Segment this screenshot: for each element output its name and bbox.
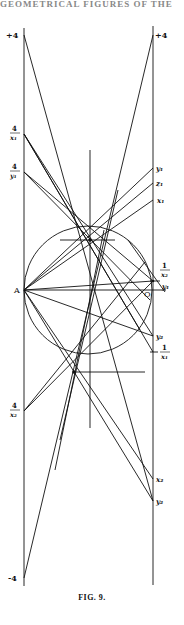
steep-line-1 [55, 230, 104, 470]
label-1x2-den: x₂ [160, 271, 168, 279]
line-4y1-inner [24, 172, 150, 300]
line-4y1-to-1x2 [24, 172, 153, 281]
construction-lines [24, 26, 166, 586]
label-left-top: +4 [6, 30, 19, 40]
lower-intersection-point [72, 370, 76, 374]
label-right-top: +4 [155, 30, 168, 40]
point-1x2 [152, 280, 155, 283]
label-4y1-num: 4 [12, 162, 17, 171]
geometric-construction-figure: +4 +4 -4 4 x₁ 4 y₁ A 4 x₂ y₁ z₁ x₁ 1 x₂ … [0, 0, 184, 625]
line-plus4-to-y2 [24, 35, 153, 501]
upper-intersection-point [88, 238, 92, 242]
line-to-1x2-tick [128, 240, 165, 292]
label-4x1-den: x₁ [9, 134, 17, 142]
label-A: A [13, 286, 20, 295]
line-A-to-y1 [24, 168, 153, 290]
label-4x2-den: x₂ [9, 411, 17, 419]
figure-caption: FIG. 9. [0, 593, 184, 602]
label-y1-small: y₁ [161, 282, 169, 291]
label-4x1-num: 4 [12, 124, 17, 133]
label-y2-upper: y₂ [155, 332, 163, 341]
line-A-to-y2-lower [24, 290, 153, 501]
label-4y1-den: y₁ [9, 172, 17, 180]
label-4x2-num: 4 [12, 401, 17, 410]
label-y1: y₁ [155, 164, 163, 173]
label-1x2-num: 1 [162, 261, 167, 270]
label-x1: x₁ [156, 196, 164, 205]
label-x2: x₂ [155, 475, 163, 484]
line-A-to-y2 [24, 290, 153, 336]
label-z1: z₁ [155, 179, 163, 188]
label-neg1x1-num: 1 [162, 343, 167, 352]
line-A-to-z1 [24, 183, 153, 290]
line-4x2-to-1x2 [24, 281, 153, 411]
label-neg1x1-den: x₁ [160, 353, 168, 361]
label-O: O [144, 290, 151, 299]
line-A-to-y1-small [24, 281, 153, 290]
label-y2: y₂ [155, 497, 163, 506]
label-left-bottom: -4 [8, 573, 17, 583]
